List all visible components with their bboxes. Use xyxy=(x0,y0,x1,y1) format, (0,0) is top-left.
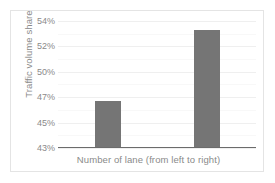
gridline-major xyxy=(58,148,256,149)
y-axis-tick-label: 50% xyxy=(29,67,55,77)
gridline-minor xyxy=(58,135,256,136)
gridline-major xyxy=(58,72,256,73)
gridline-major xyxy=(58,123,256,124)
y-axis-tick-label: 54% xyxy=(29,16,55,26)
y-axis-tick-label: 52% xyxy=(29,41,55,51)
gridline-minor xyxy=(58,34,256,35)
gridline-minor xyxy=(58,84,256,85)
gridline-minor xyxy=(58,59,256,60)
x-axis-line xyxy=(58,147,256,149)
plot-area xyxy=(58,21,256,148)
gridline-major xyxy=(58,97,256,98)
bar xyxy=(194,30,220,148)
y-axis-tick-labels: 43%45%47%50%52%54% xyxy=(29,21,55,148)
y-axis-tick-label: 43% xyxy=(29,143,55,153)
gridline-major xyxy=(58,21,256,22)
gridline-major xyxy=(58,46,256,47)
y-axis-tick-label: 47% xyxy=(29,92,55,102)
bar xyxy=(95,101,121,148)
chart-container: Traffic volume share 43%45%47%50%52%54% … xyxy=(10,10,264,172)
y-axis-tick-label: 45% xyxy=(29,118,55,128)
gridline-minor xyxy=(58,110,256,111)
x-axis-title: Number of lane (from left to right) xyxy=(41,154,256,165)
